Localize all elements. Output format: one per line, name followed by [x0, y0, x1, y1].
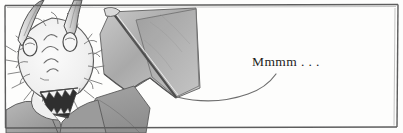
- left-eye: [23, 38, 37, 56]
- comic-illustration: [0, 0, 403, 133]
- comic-panel: Mmmm . . .: [0, 0, 403, 133]
- caption-text: Mmmm . . .: [252, 54, 320, 70]
- right-eye: [63, 33, 77, 52]
